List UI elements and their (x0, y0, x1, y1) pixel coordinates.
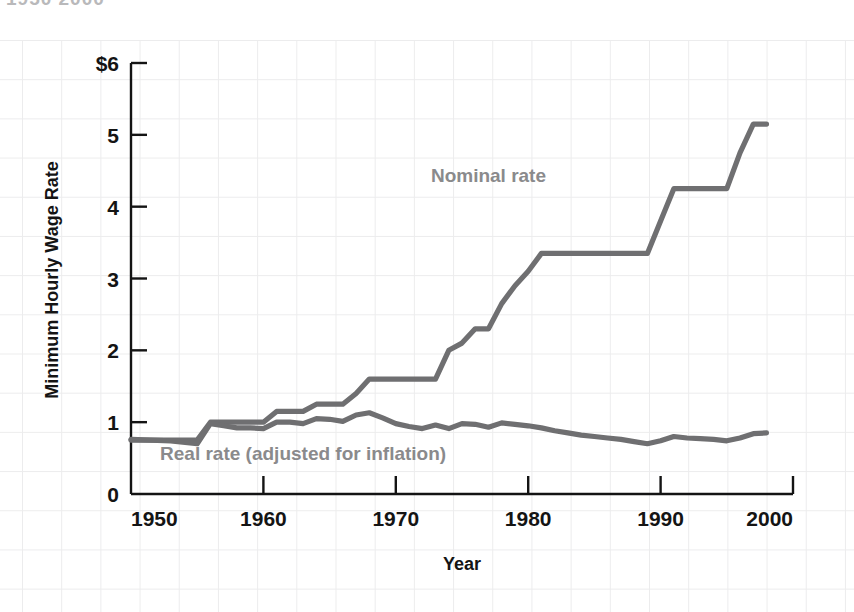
y-tick-label: 2 (107, 339, 119, 362)
y-tick-label: 3 (107, 268, 119, 291)
minimum-wage-line-chart: 012345$6 195019601970198019902000 Minimu… (0, 0, 854, 612)
series-label-real-rate: Real rate (adjusted for inflation) (160, 443, 446, 464)
x-tick-label: 1980 (505, 507, 552, 530)
x-tick-label: 1970 (372, 507, 419, 530)
x-axis-ticks (263, 476, 793, 494)
x-tick-label: 2000 (746, 507, 793, 530)
y-tick-label: 0 (107, 483, 119, 506)
x-axis-tick-labels: 195019601970198019902000 (131, 507, 793, 530)
y-tick-label: 1 (107, 411, 119, 434)
y-axis-title: Minimum Hourly Wage Rate (42, 161, 62, 398)
series-line-real (131, 413, 767, 444)
y-axis-tick-labels: 012345$6 (96, 52, 120, 506)
y-axis-ticks (131, 63, 147, 422)
x-tick-label: 1960 (240, 507, 287, 530)
x-tick-label: 1990 (637, 507, 684, 530)
y-tick-label: 5 (107, 124, 119, 147)
y-tick-label: $6 (96, 52, 119, 75)
x-tick-label: 1950 (131, 507, 178, 530)
y-tick-label: 4 (107, 196, 119, 219)
series-label-nominal-rate: Nominal rate (431, 165, 546, 186)
x-axis-title: Year (443, 554, 481, 574)
